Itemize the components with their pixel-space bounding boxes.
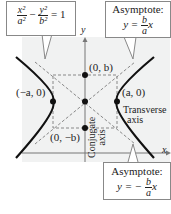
equation-callout: x²a² − y²b² = 1 [6,1,76,36]
term2-denominator: b² [38,16,48,26]
asymptote-pos-den: a [141,26,148,36]
vertex-right-point [114,99,120,105]
x-axis-label: x [162,144,166,155]
equals-one: = 1 [51,8,65,20]
minus-sign: − [29,8,35,20]
co-vertex-bottom-label: (0, −b) [50,131,80,143]
y-axis-label: y [81,24,85,35]
asymptote-pos-title: Asymptote: [106,3,170,15]
vertex-left-point [50,99,56,105]
equation-callout-pointer [42,34,52,59]
conjugate-axis-label-line2: axis [97,117,107,158]
conjugate-axis-label: Conjugate axis [87,117,107,158]
asymptote-pos-callout-pointer [124,37,136,59]
x-axis-arrow-icon [166,151,171,156]
co-vertex-top-label: (0, b) [89,61,113,73]
vertex-left-label: (−a, 0) [16,86,45,98]
asymptote-neg-den: a [145,188,152,198]
co-vertex-top-point [82,72,88,78]
asymptote-pos-suffix: x [148,18,153,30]
asymptote-pos-prefix: y = [123,18,138,30]
y-axis-arrow-icon [83,37,88,42]
vertex-right-label: (a, 0) [122,86,145,98]
asymptote-neg-suffix: x [152,180,157,192]
asymptote-neg-prefix: y = − [117,180,142,192]
term1-denominator: a² [17,16,27,26]
center-point [82,99,88,105]
transverse-axis-label-line2: axis [127,114,143,125]
asymptote-positive-callout: Asymptote: y = bax [105,1,171,38]
asymptote-negative-callout: Asymptote: y = − bax [103,162,171,200]
asymptote-neg-title: Asymptote: [104,165,170,177]
